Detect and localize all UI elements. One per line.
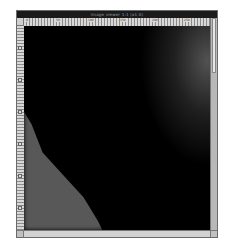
- ruler-mark: [18, 78, 22, 82]
- image-viewer-window: image viewer 1:1 (x1.0) 0 50 100 150 200…: [16, 10, 218, 238]
- horizontal-scrollbar[interactable]: [24, 230, 210, 237]
- ruler-mark: [18, 110, 22, 114]
- ruler-mark: [18, 206, 22, 210]
- window-title: image viewer 1:1 (x1.0): [91, 12, 143, 17]
- ruler-corner: [17, 18, 24, 26]
- vertical-scrollbar[interactable]: [210, 18, 217, 230]
- ruler-mark: [18, 142, 22, 146]
- bottom-left-corner: [17, 230, 24, 237]
- image-canvas[interactable]: [24, 26, 210, 230]
- ruler-label: 0: [26, 18, 28, 22]
- ruler-label: 200: [152, 18, 158, 22]
- vertical-scroll-thumb[interactable]: [212, 18, 216, 73]
- ruler-mark: [18, 174, 22, 178]
- title-bar[interactable]: image viewer 1:1 (x1.0): [17, 11, 217, 18]
- ruler-label: 100: [88, 18, 94, 22]
- ruler-label: 150: [120, 18, 126, 22]
- ruler-label: 250: [184, 18, 190, 22]
- ruler-label: 50: [56, 18, 60, 22]
- image-bright-region-top-right: [140, 26, 210, 166]
- resize-handle[interactable]: [210, 230, 217, 237]
- ruler-mark: [18, 46, 22, 50]
